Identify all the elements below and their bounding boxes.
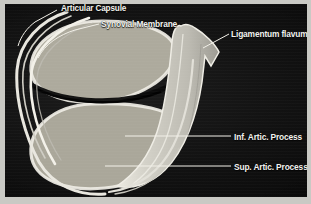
label-articular-capsule: Articular Capsule [61,5,126,13]
label-synovial-membrane: Synovial Membrane [101,20,177,28]
figure-frame: Articular Capsule Synovial Membrane Liga… [0,0,311,204]
label-ligamentum-flavum: Ligamentum flavum [231,30,307,38]
label-sup-artic-process: Sup. Artic. Process [234,163,307,171]
label-inf-artic-process: Inf. Artic. Process [234,133,302,141]
illustration-plate: Articular Capsule Synovial Membrane Liga… [5,4,307,197]
